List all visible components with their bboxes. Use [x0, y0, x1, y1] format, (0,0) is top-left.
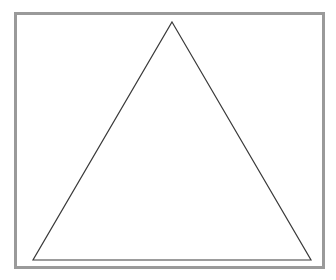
- figure-background: [0, 0, 336, 280]
- figure-canvas: [0, 0, 336, 280]
- triangle-figure-svg: [0, 0, 336, 280]
